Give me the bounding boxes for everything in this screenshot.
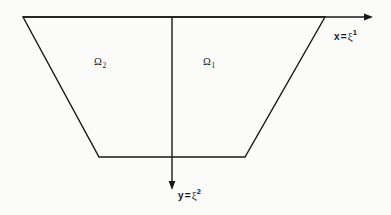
x-axis-arrowhead-icon <box>364 14 373 21</box>
omega-1-subscript: 1 <box>212 61 216 70</box>
y-axis-xi-symbol: ξ <box>192 189 197 201</box>
y-axis-label: y=ξ2 <box>178 190 201 201</box>
region-label-omega-2: Ω2 <box>94 57 106 68</box>
omega-2-symbol: Ω <box>94 56 102 67</box>
x-axis-variable: x <box>334 31 341 42</box>
y-axis-arrowhead-icon <box>169 181 176 190</box>
figure-canvas: Ω2 Ω1 x=ξ1 y=ξ2 <box>0 0 391 215</box>
omega-1-symbol: Ω <box>203 56 211 67</box>
x-axis-xi-symbol: ξ <box>348 30 353 42</box>
y-axis-equals: = <box>185 190 192 201</box>
x-axis-equals: = <box>341 31 348 42</box>
x-axis-label: x=ξ1 <box>334 31 357 42</box>
x-axis-superscript: 1 <box>353 28 357 37</box>
y-axis-variable: y <box>178 190 185 201</box>
omega-2-subscript: 2 <box>103 61 107 70</box>
y-axis-superscript: 2 <box>197 187 201 196</box>
region-label-omega-1: Ω1 <box>203 57 215 68</box>
trapezoid-domain-outline <box>23 17 325 157</box>
diagram-svg <box>0 0 391 215</box>
